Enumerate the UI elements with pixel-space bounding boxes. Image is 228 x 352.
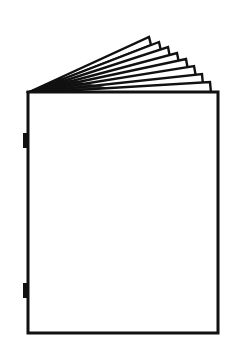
booklet-cover (28, 92, 218, 333)
staple-bottom (23, 283, 27, 298)
staple-top (23, 133, 27, 148)
booklet-illustration: Line drawing of a stapled booklet with p… (0, 0, 228, 352)
booklet-icon (0, 0, 228, 352)
